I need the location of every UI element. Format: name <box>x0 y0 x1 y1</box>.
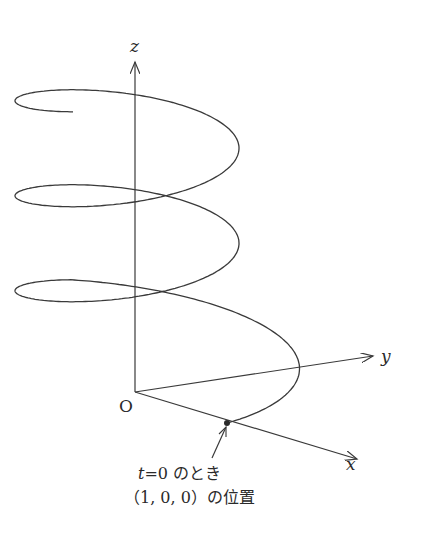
z-axis-label: z <box>129 36 140 56</box>
annotation-line-1: t=0 のとき <box>138 464 221 483</box>
start-point-dot <box>224 420 230 426</box>
helix-diagram: z y x O t=0 のとき （1, 0, 0）の位置 <box>0 0 424 544</box>
origin-label: O <box>119 396 133 416</box>
annotation-pointer <box>212 427 226 458</box>
y-axis <box>135 356 373 392</box>
annotation-condition: =0 のとき <box>144 464 221 483</box>
x-axis <box>135 392 357 459</box>
y-axis-label: y <box>380 346 391 366</box>
x-axis-label: x <box>346 454 356 474</box>
annotation-line-2: （1, 0, 0）の位置 <box>124 488 255 507</box>
